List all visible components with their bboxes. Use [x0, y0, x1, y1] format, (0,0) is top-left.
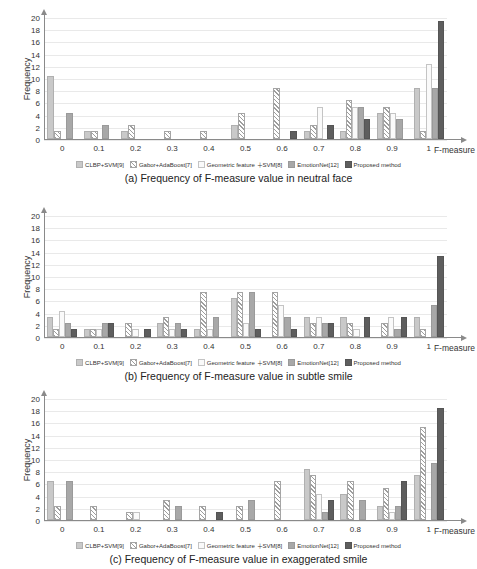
plot-area-b: Frequency0246810121416182000.10.20.30.40…	[0, 210, 477, 338]
bar-group	[231, 216, 261, 337]
x-axis-arrow-icon	[461, 518, 467, 524]
legend-item[interactable]: CLBP+SVM[9]	[76, 359, 124, 366]
y-tick-label: 12	[22, 260, 40, 269]
legend-swatch-icon	[198, 161, 205, 168]
bar-group	[267, 18, 297, 139]
legend-swatch-icon	[130, 359, 137, 366]
y-axis-ticks: 02468101214161820	[20, 12, 40, 140]
bar-groups	[44, 216, 447, 337]
legend-label: Geometric feature ＋SVM[8]	[207, 160, 282, 169]
bar-group	[340, 18, 370, 139]
legend-swatch-icon	[198, 542, 205, 549]
gridline	[44, 521, 447, 522]
legend-label: Proposed method	[354, 360, 401, 366]
bar-group	[267, 216, 297, 337]
bar-group	[414, 216, 444, 337]
legend-item[interactable]: Proposed method	[345, 542, 401, 549]
legend-item[interactable]: Proposed method	[345, 359, 401, 366]
bar	[420, 329, 426, 337]
legend-item[interactable]: EmotionNet[12]	[288, 359, 338, 366]
legend-swatch-icon	[345, 542, 352, 549]
chart-legend: CLBP+SVM[9]Gabor+AdaBoost[7]Geometric fe…	[0, 541, 477, 550]
legend-item[interactable]: CLBP+SVM[9]	[76, 161, 124, 168]
y-tick-label: 18	[22, 26, 40, 35]
y-tick-label: 18	[22, 407, 40, 416]
legend-item[interactable]: CLBP+SVM[9]	[76, 542, 124, 549]
bar	[181, 329, 187, 337]
bar	[108, 323, 114, 337]
y-tick-label: 16	[22, 419, 40, 428]
legend-label: EmotionNet[12]	[297, 543, 338, 549]
chart-figure-c: Frequency0246810121416182000.10.20.30.40…	[0, 393, 477, 569]
x-axis-arrow-icon	[461, 335, 467, 341]
y-axis-ticks: 02468101214161820	[20, 210, 40, 338]
x-tick-label: 1	[426, 525, 430, 534]
bar-group	[47, 18, 77, 139]
y-axis-arrow-icon	[41, 207, 47, 213]
bar	[236, 506, 243, 520]
chart-legend: CLBP+SVM[9]Gabor+AdaBoost[7]Geometric fe…	[0, 160, 477, 169]
bar	[84, 131, 91, 139]
legend-item[interactable]: Geometric feature ＋SVM[8]	[198, 541, 282, 550]
x-tick-label: 0.7	[313, 525, 324, 534]
bar	[317, 107, 323, 140]
x-tick-label: 0.1	[93, 342, 104, 351]
legend-item[interactable]: Geometric feature ＋SVM[8]	[198, 160, 282, 169]
bar	[401, 481, 407, 520]
bar-group	[267, 399, 297, 520]
bar	[213, 317, 219, 337]
bar-group	[304, 216, 334, 337]
y-tick-label: 0	[22, 517, 40, 526]
x-axis-label: F-measure	[434, 526, 475, 536]
x-tick-label: 0.7	[313, 342, 324, 351]
bar-group	[194, 399, 224, 520]
legend-item[interactable]: Geometric feature ＋SVM[8]	[198, 358, 282, 367]
legend-swatch-icon	[76, 542, 83, 549]
x-tick-label: 0.3	[167, 525, 178, 534]
legend-item[interactable]: Gabor+AdaBoost[7]	[130, 542, 192, 549]
bar-group	[340, 399, 370, 520]
bar	[66, 481, 73, 520]
legend-item[interactable]: Gabor+AdaBoost[7]	[130, 359, 192, 366]
legend-swatch-icon	[198, 359, 205, 366]
x-tick-label: 0.2	[130, 342, 141, 351]
bar	[238, 113, 245, 139]
bar	[353, 329, 359, 337]
bar-group	[377, 216, 407, 337]
legend-label: Gabor+AdaBoost[7]	[139, 543, 192, 549]
x-tick-label: 0.8	[350, 144, 361, 153]
bar	[420, 427, 426, 521]
y-tick-label: 0	[22, 334, 40, 343]
bar	[164, 131, 171, 139]
legend-item[interactable]: EmotionNet[12]	[288, 161, 338, 168]
y-tick-label: 8	[22, 87, 40, 96]
bar	[255, 329, 261, 337]
x-tick-label: 0.4	[203, 342, 214, 351]
x-axis-label: F-measure	[434, 343, 475, 353]
y-tick-label: 14	[22, 431, 40, 440]
bar	[248, 500, 255, 520]
legend-item[interactable]: Proposed method	[345, 161, 401, 168]
bar	[396, 119, 402, 139]
legend-label: Proposed method	[354, 162, 401, 168]
legend-item[interactable]: Gabor+AdaBoost[7]	[130, 161, 192, 168]
bar-groups	[44, 399, 447, 520]
y-tick-label: 20	[22, 212, 40, 221]
legend-item[interactable]: EmotionNet[12]	[288, 542, 338, 549]
bar	[66, 113, 73, 139]
bar	[121, 131, 128, 139]
x-tick-label: 0	[60, 525, 64, 534]
bar	[200, 131, 207, 139]
chart-figure-b: Frequency0246810121416182000.10.20.30.40…	[0, 210, 477, 398]
x-tick-label: 0.2	[130, 525, 141, 534]
x-tick-label: 0.2	[130, 144, 141, 153]
gridline	[44, 338, 447, 339]
bar	[216, 512, 223, 520]
x-tick-label: 0.5	[240, 342, 251, 351]
x-tick-label: 0.1	[93, 525, 104, 534]
x-tick-label: 0.9	[386, 342, 397, 351]
bar	[328, 500, 334, 520]
figure-caption: (b) Frequency of F-measure value in subt…	[0, 370, 477, 382]
bar	[163, 500, 170, 520]
y-tick-label: 6	[22, 297, 40, 306]
